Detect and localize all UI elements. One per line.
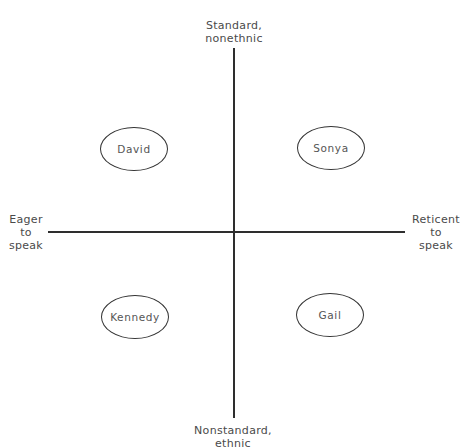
axis-label-right-line2: to — [405, 226, 467, 239]
node-label: Sonya — [313, 142, 348, 154]
axis-label-top-line2: nonethnic — [184, 32, 284, 45]
node-label: Gail — [319, 309, 342, 321]
node-sonya: Sonya — [297, 126, 365, 170]
node-gail: Gail — [296, 293, 364, 337]
node-label: David — [117, 143, 150, 155]
axis-label-bottom: Nonstandard, ethnic — [178, 424, 288, 448]
node-kennedy: Kennedy — [101, 295, 169, 339]
node-david: David — [100, 127, 168, 171]
axis-label-left-line1: Eager — [4, 213, 48, 226]
axis-label-bottom-line1: Nonstandard, — [178, 424, 288, 437]
axis-label-left-line2: to — [4, 226, 48, 239]
node-label: Kennedy — [110, 311, 160, 323]
axis-label-top-line1: Standard, — [184, 19, 284, 32]
horizontal-axis — [48, 231, 405, 233]
axis-label-top: Standard, nonethnic — [184, 19, 284, 45]
axis-label-right-line1: Reticent — [405, 213, 467, 226]
axis-label-left-line3: speak — [4, 239, 48, 252]
axis-label-bottom-line2: ethnic — [178, 437, 288, 448]
axis-label-right-line3: speak — [405, 239, 467, 252]
vertical-axis — [233, 48, 235, 418]
axis-label-left: Eager to speak — [4, 213, 48, 252]
axis-label-right: Reticent to speak — [405, 213, 467, 252]
